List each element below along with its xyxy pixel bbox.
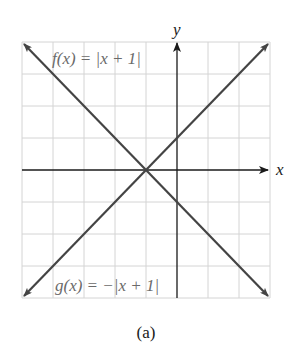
absolute-value-graph: f(x) = |x + 1| g(x) = −|x + 1| y x (a) bbox=[0, 0, 301, 363]
y-axis-label: y bbox=[171, 20, 181, 39]
x-axis-label: x bbox=[275, 160, 284, 179]
g-function-label: g(x) = −|x + 1| bbox=[55, 276, 159, 295]
figure-caption: (a) bbox=[137, 323, 156, 342]
f-function-label: f(x) = |x + 1| bbox=[52, 49, 141, 68]
